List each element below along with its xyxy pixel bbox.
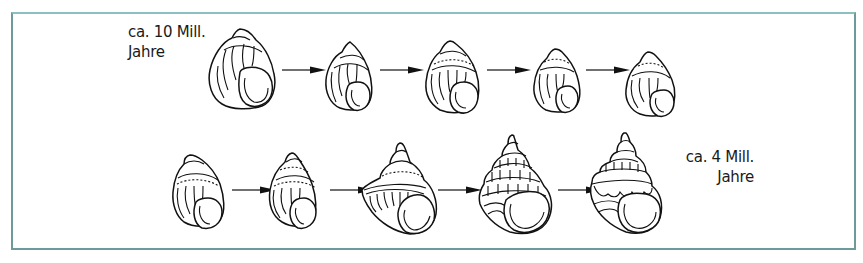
shell-icon-8 (362, 143, 436, 234)
arrow-icon-3 (487, 67, 531, 74)
arrow-icon-2 (380, 67, 424, 74)
shell-icon-2 (326, 42, 372, 110)
shell-icon-10 (591, 133, 662, 233)
arrow-icon-1 (282, 67, 326, 74)
shell-icon-5 (626, 52, 675, 116)
shell-icon-1 (209, 29, 275, 109)
shell-icon-7 (270, 153, 317, 228)
arrow-icon-7 (438, 187, 482, 194)
shell-icon-3 (426, 41, 479, 113)
shell-icon-9 (479, 135, 551, 234)
shell-icon-6 (173, 155, 224, 228)
arrow-icon-4 (586, 67, 630, 74)
shell-sequence-drawing (0, 0, 863, 263)
shell-icon-4 (534, 49, 580, 112)
